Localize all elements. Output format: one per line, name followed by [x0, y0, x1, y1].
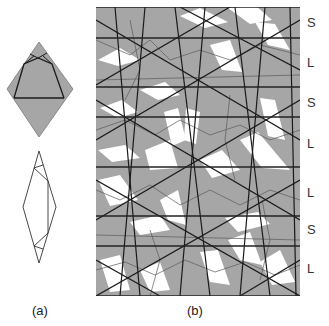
band-label-6: S: [307, 223, 316, 236]
band-label-5: L: [307, 186, 314, 199]
band-label-1: S: [307, 16, 316, 29]
band-label-4: L: [307, 137, 314, 150]
band-label-7: L: [307, 262, 314, 275]
band-label-3: S: [307, 96, 316, 109]
band-label-2: L: [307, 56, 314, 69]
panel-b-tiling: [0, 0, 329, 326]
panel-b-caption: (b): [187, 303, 203, 318]
